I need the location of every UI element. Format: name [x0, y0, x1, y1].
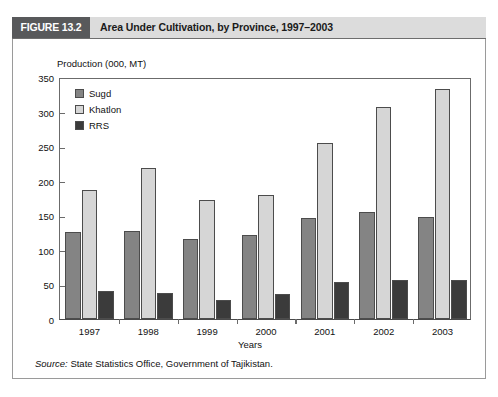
legend-item-sugd: Sugd	[75, 86, 121, 100]
bar-rrs-1999	[216, 300, 232, 319]
legend-item-rrs: RRS	[75, 118, 121, 132]
x-tick-mark	[354, 319, 355, 324]
x-tick-label-2000: 2000	[237, 326, 296, 337]
bar-sugd-1997	[65, 232, 81, 319]
y-tick-label: 150	[38, 211, 54, 222]
y-axis-title: Production (000, MT)	[57, 58, 146, 69]
x-axis-title: Years	[13, 339, 487, 350]
bar-rrs-2000	[275, 294, 291, 319]
x-tick-label-1999: 1999	[178, 326, 237, 337]
chart-area: Production (000, MT) 0501001502002503003…	[13, 39, 487, 379]
bar-group	[295, 79, 354, 319]
figure-number-tag: FIGURE 13.2	[12, 17, 90, 38]
y-tick-label: 300	[38, 108, 54, 119]
bar-group	[413, 79, 472, 319]
bar-sugd-2002	[359, 212, 375, 319]
figure-root: FIGURE 13.2 Area Under Cultivation, by P…	[0, 0, 498, 397]
bar-khatlon-1999	[199, 200, 215, 319]
bar-sugd-2001	[301, 218, 317, 319]
y-tick-label: 200	[38, 177, 54, 188]
legend-label-sugd: Sugd	[89, 88, 111, 99]
x-tick-mark	[119, 319, 120, 324]
bar-sugd-2000	[242, 235, 258, 319]
x-tick-label-2002: 2002	[354, 326, 413, 337]
bar-khatlon-2002	[376, 107, 392, 319]
bar-khatlon-2001	[317, 143, 333, 319]
x-tick-label-1997: 1997	[60, 326, 119, 337]
bar-group	[178, 79, 237, 319]
legend-label-rrs: RRS	[89, 120, 109, 131]
bar-group	[237, 79, 296, 319]
legend-swatch-rrs-icon	[75, 121, 84, 130]
source-note: Source: State Statistics Office, Governm…	[35, 358, 273, 369]
chart-legend: Sugd Khatlon RRS	[75, 86, 121, 134]
x-tick-label-1998: 1998	[119, 326, 178, 337]
bar-khatlon-1997	[82, 190, 98, 319]
x-tick-mark	[237, 319, 238, 324]
x-tick-label-2003: 2003	[413, 326, 472, 337]
bar-rrs-1997	[98, 291, 114, 319]
bar-khatlon-2000	[258, 195, 274, 319]
y-tick-label: 100	[38, 246, 54, 257]
figure-title: Area Under Cultivation, by Province, 199…	[100, 17, 333, 38]
bar-rrs-2002	[392, 280, 408, 319]
y-tick-label: 350	[38, 73, 54, 84]
y-tick-label: 50	[43, 280, 54, 291]
bar-rrs-2003	[451, 280, 467, 319]
bar-group	[119, 79, 178, 319]
bar-rrs-2001	[334, 282, 350, 319]
bar-khatlon-2003	[435, 89, 451, 319]
x-tick-mark	[178, 319, 179, 324]
legend-item-khatlon: Khatlon	[75, 102, 121, 116]
figure-plate: Production (000, MT) 0501001502002503003…	[12, 39, 486, 379]
bar-khatlon-1998	[141, 168, 157, 319]
x-tick-mark	[295, 319, 296, 324]
x-tick-mark	[413, 319, 414, 324]
bar-group	[354, 79, 413, 319]
source-label: Source:	[35, 358, 68, 369]
bar-sugd-2003	[418, 217, 434, 319]
legend-label-khatlon: Khatlon	[89, 104, 121, 115]
y-tick-label: 0	[49, 315, 54, 326]
bar-sugd-1998	[124, 231, 140, 320]
figure-header-band: FIGURE 13.2 Area Under Cultivation, by P…	[12, 17, 486, 39]
bars-layer	[60, 79, 470, 319]
y-tick-label: 250	[38, 142, 54, 153]
legend-swatch-khatlon-icon	[75, 105, 84, 114]
source-text: State Statistics Office, Government of T…	[70, 358, 272, 369]
bar-rrs-1998	[157, 293, 173, 319]
bar-sugd-1999	[183, 239, 199, 319]
legend-swatch-sugd-icon	[75, 89, 84, 98]
x-tick-label-2001: 2001	[295, 326, 354, 337]
